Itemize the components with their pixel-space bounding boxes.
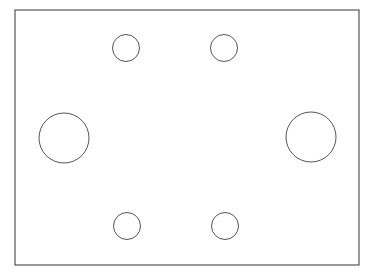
hole-bottom-left [114,213,141,240]
plate-diagram [0,0,371,274]
hole-top-left [113,35,140,62]
hole-bottom-right [212,213,239,240]
holes-group [39,35,336,240]
hole-top-right [211,35,238,62]
hole-middle-right [286,112,336,162]
hole-middle-left [39,113,89,163]
plate-outline [15,10,359,265]
